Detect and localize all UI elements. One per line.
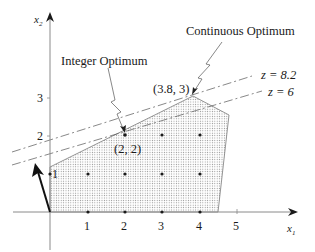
x2-tick-3: 3	[37, 91, 43, 105]
x2-tick-1: 1	[52, 167, 58, 181]
objective-z-8-2-label: z = 8.2	[260, 68, 296, 82]
continuous-optimum-leader	[193, 42, 222, 93]
x1-tick-4: 4	[196, 219, 202, 233]
integer-point-label: (2, 2)	[114, 142, 141, 156]
x1-tick-5: 5	[233, 219, 239, 233]
x1-tick-2: 2	[121, 219, 127, 233]
integer-optimum-label: Integer Optimum	[61, 54, 148, 68]
integer-optimum-leader	[108, 68, 124, 131]
objective-gradient-arrow	[38, 172, 50, 212]
continuous-point-label: (3.8, 3)	[153, 82, 189, 96]
x2-tick-2: 2	[37, 129, 43, 143]
objective-z-6-label: z = 6	[267, 85, 295, 99]
x1-tick-3: 3	[158, 219, 164, 233]
integer-optimum-point	[123, 133, 127, 137]
x2-axis-label: x2	[33, 13, 43, 28]
x1-tick-1: 1	[84, 219, 90, 233]
continuous-optimum-label: Continuous Optimum	[186, 24, 295, 38]
ip-diagram: x2 x1 1 2 3 4 5 1 2 3 Integer Optimum Co…	[0, 0, 315, 252]
x1-axis-label: x1	[286, 222, 295, 237]
